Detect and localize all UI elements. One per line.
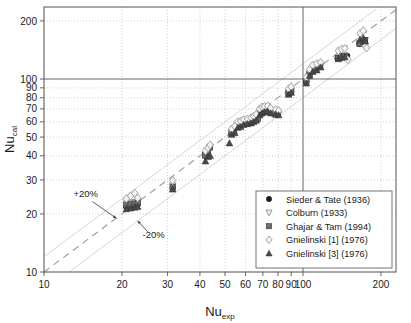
legend-label: Gnielinski [3] (1976) [286, 249, 368, 259]
xtick-label-50: 50 [219, 279, 231, 290]
data-point [266, 196, 271, 201]
xtick-label-70: 70 [257, 279, 269, 290]
xtick-label-20: 20 [116, 279, 128, 290]
chart-canvas: 1020304050607080901002001020304050607080… [0, 0, 411, 323]
xtick-label-200: 200 [373, 279, 390, 290]
ytick-label-10: 10 [26, 267, 38, 278]
xtick-label-30: 30 [162, 279, 174, 290]
xtick-label-10: 10 [38, 279, 50, 290]
xtick-label-40: 40 [194, 279, 206, 290]
legend-label: Gnielinski [1] (1976) [286, 235, 368, 245]
ytick-label-60: 60 [26, 116, 38, 127]
plus20-annotation-label: +20% [74, 188, 99, 199]
nusselt-parity-chart: 1020304050607080901002001020304050607080… [0, 0, 411, 323]
xtick-label-80: 80 [272, 279, 284, 290]
legend-label: Sieder & Tate (1936) [286, 195, 370, 205]
ytick-label-200: 200 [20, 16, 37, 27]
ytick-label-20: 20 [26, 209, 38, 220]
legend-label: Ghajar & Tam (1994) [286, 222, 371, 232]
data-point [266, 224, 271, 229]
legend-label: Colburn (1933) [286, 208, 347, 218]
ytick-label-80: 80 [26, 92, 38, 103]
minus20-annotation-label: -20% [143, 229, 166, 240]
xtick-label-60: 60 [240, 279, 252, 290]
legend[interactable]: Sieder & Tate (1936)Colburn (1933)Ghajar… [256, 191, 392, 268]
xtick-label-100: 100 [295, 279, 312, 290]
ytick-label-30: 30 [26, 175, 38, 186]
ytick-label-100: 100 [20, 74, 37, 85]
ytick-label-50: 50 [26, 132, 38, 143]
ytick-label-70: 70 [26, 103, 38, 114]
ytick-label-40: 40 [26, 150, 38, 161]
